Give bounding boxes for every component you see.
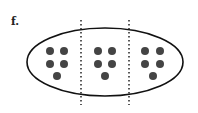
group-2-dot: [108, 47, 116, 55]
diagram-figure: f.: [0, 0, 198, 113]
group-1-dot: [60, 47, 68, 55]
group-1-dot: [46, 47, 54, 55]
group-1-dot: [53, 72, 61, 80]
group-2-dot: [108, 60, 116, 68]
group-3-dot: [141, 47, 149, 55]
group-2-dot: [101, 72, 109, 80]
group-2-dot: [94, 60, 102, 68]
group-1-dot: [60, 60, 68, 68]
grouping-diagram: [0, 0, 198, 113]
group-3-dot: [141, 60, 149, 68]
group-3-dot: [149, 72, 157, 80]
group-1-dot: [46, 60, 54, 68]
group-3-dot: [156, 60, 164, 68]
group-3-dot: [156, 47, 164, 55]
group-2-dot: [94, 47, 102, 55]
